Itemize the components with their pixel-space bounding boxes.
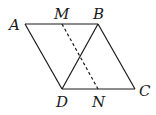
parallelogram-diagram: A M B D N C [0,0,156,115]
label-a: A [7,16,20,34]
label-n: N [91,93,106,111]
segment-bc [98,24,135,89]
label-c: C [139,82,151,100]
label-b: B [92,5,104,23]
segment-da [25,24,62,89]
label-m: M [53,5,70,23]
label-d: D [55,93,68,111]
